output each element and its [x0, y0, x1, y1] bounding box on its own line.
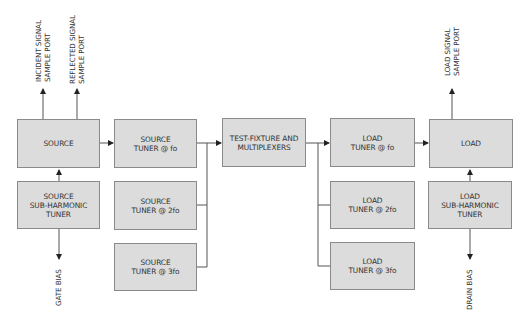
source-tuner-fo-label: SOURCE TUNER @ fo	[134, 135, 177, 153]
source-block: SOURCE	[17, 119, 100, 168]
source-subharmonic-label: SOURCE SUB-HARMONIC TUNER	[30, 192, 87, 219]
incident-signal-port-label: INCIDENT SIGNAL SAMPLE PORT	[35, 20, 52, 82]
source-label: SOURCE	[44, 139, 74, 148]
reflected-signal-port-label: REFLECTED SIGNAL SAMPLE PORT	[69, 15, 86, 84]
source-subharmonic-tuner-block: SOURCE SUB-HARMONIC TUNER	[17, 181, 100, 229]
load-signal-port-label: LOAD SIGNAL SAMPLE PORT	[444, 27, 461, 76]
source-tuner-fo-block: SOURCE TUNER @ fo	[114, 119, 197, 168]
load-tuner-fo-label: LOAD TUNER @ fo	[351, 134, 394, 152]
source-tuner-2fo-label: SOURCE TUNER @ 2fo	[131, 197, 179, 215]
source-tuner-2fo-block: SOURCE TUNER @ 2fo	[114, 181, 197, 230]
load-label: LOAD	[461, 139, 481, 148]
load-tuner-3fo-block: LOAD TUNER @ 3fo	[330, 242, 415, 290]
load-subharmonic-label: LOAD SUB-HARMONIC TUNER	[441, 192, 498, 219]
load-block: LOAD	[429, 119, 513, 168]
test-fixture-block: TEST-FIXTURE AND MULTIPLEXERS	[222, 118, 306, 167]
test-fixture-label: TEST-FIXTURE AND MULTIPLEXERS	[230, 134, 299, 152]
gate-bias-label: GATE BIAS	[55, 269, 64, 306]
load-subharmonic-tuner-block: LOAD SUB-HARMONIC TUNER	[428, 181, 512, 229]
source-tuner-3fo-label: SOURCE TUNER @ 3fo	[131, 258, 179, 276]
load-tuner-2fo-block: LOAD TUNER @ 2fo	[330, 181, 415, 229]
source-tuner-3fo-block: SOURCE TUNER @ 3fo	[114, 243, 197, 291]
load-tuner-3fo-label: LOAD TUNER @ 3fo	[348, 257, 396, 275]
load-tuner-2fo-label: LOAD TUNER @ 2fo	[348, 196, 396, 214]
drain-bias-label: DRAIN BIAS	[466, 270, 475, 310]
load-tuner-fo-block: LOAD TUNER @ fo	[330, 118, 415, 167]
